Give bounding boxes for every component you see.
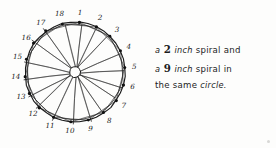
point-label-17: 17 <box>36 18 46 27</box>
caption-line-1-rest: spiral and <box>196 45 241 55</box>
point-label-5: 5 <box>132 62 137 71</box>
caption-line-2-number: 9 <box>163 62 171 74</box>
point-label-7: 7 <box>122 101 127 110</box>
caption-line-2-rest: spiral in <box>196 64 232 74</box>
caption-line-3-tail: circle. <box>200 80 226 90</box>
caption: a 2 inch spiral and a 9 inch spiral in t… <box>155 44 273 98</box>
hub-center <box>70 67 81 78</box>
point-label-15: 15 <box>13 52 23 61</box>
caption-line-2-unit: inch <box>175 64 193 74</box>
point-label-13: 13 <box>17 92 27 101</box>
point-label-12: 12 <box>28 109 38 118</box>
caption-line-1-unit: inch <box>175 45 193 55</box>
caption-line-1-article: a <box>155 45 160 55</box>
point-label-2: 2 <box>97 13 103 22</box>
caption-line-1-number: 2 <box>163 43 171 55</box>
point-label-4: 4 <box>126 42 132 51</box>
point-label-9: 9 <box>88 124 93 133</box>
point-label-3: 3 <box>115 25 120 34</box>
caption-line-1: a 2 inch spiral and <box>155 44 273 55</box>
point-label-18: 18 <box>55 9 65 18</box>
point-label-11: 11 <box>45 121 54 130</box>
caption-line-2-article: a <box>155 64 160 74</box>
caption-line-3-text: the same <box>155 80 197 90</box>
caption-line-3: the same circle. <box>155 81 273 90</box>
point-label-10: 10 <box>65 126 75 135</box>
caption-line-2: a 9 inch spiral in <box>155 63 273 74</box>
point-label-16: 16 <box>22 33 32 42</box>
point-label-6: 6 <box>130 82 135 91</box>
paper-speck <box>267 140 270 143</box>
point-label-1: 1 <box>78 8 83 17</box>
figure-canvas: 123456789101112131415161718 a 2 inch spi… <box>0 0 276 148</box>
point-label-14: 14 <box>11 72 21 81</box>
point-label-8: 8 <box>107 116 112 125</box>
